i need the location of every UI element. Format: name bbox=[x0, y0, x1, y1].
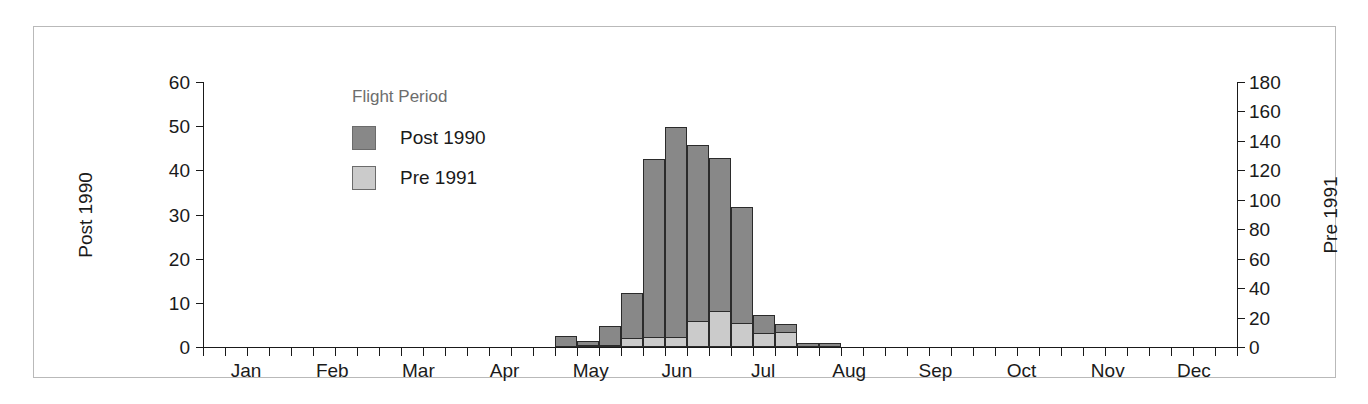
x-tick-mark bbox=[599, 348, 600, 356]
x-tick-mark bbox=[621, 348, 622, 356]
legend-label-post-1990: Post 1990 bbox=[400, 127, 486, 149]
right-tick-mark bbox=[1238, 259, 1245, 260]
x-tick-mark bbox=[643, 348, 644, 356]
left-tick-label: 60 bbox=[169, 73, 190, 92]
x-tick-mark bbox=[1193, 348, 1194, 356]
left-tick-label: 20 bbox=[169, 250, 190, 269]
left-tick-mark bbox=[196, 82, 203, 83]
x-axis-month-label: Oct bbox=[982, 361, 1062, 380]
left-tick-label: 40 bbox=[169, 161, 190, 180]
right-tick-mark bbox=[1238, 170, 1245, 171]
x-tick-mark bbox=[1061, 348, 1062, 356]
right-axis-title: Pre 1991 bbox=[1320, 176, 1342, 253]
left-tick-mark bbox=[196, 259, 203, 260]
x-tick-mark bbox=[423, 348, 424, 356]
x-tick-mark bbox=[467, 348, 468, 356]
x-tick-mark bbox=[1017, 348, 1018, 356]
right-tick-mark bbox=[1238, 82, 1245, 83]
bar-post-1990 bbox=[643, 159, 665, 347]
right-tick-mark bbox=[1238, 318, 1245, 319]
x-tick-mark bbox=[709, 348, 710, 356]
x-tick-mark bbox=[665, 348, 666, 356]
x-tick-mark bbox=[577, 348, 578, 356]
x-tick-mark bbox=[1039, 348, 1040, 356]
x-tick-mark bbox=[203, 348, 204, 356]
x-axis-month-label: Apr bbox=[465, 361, 545, 380]
left-tick-label: 50 bbox=[169, 117, 190, 136]
left-tick-label: 0 bbox=[179, 338, 190, 357]
legend-item-post-1990[interactable]: Post 1990 bbox=[352, 126, 486, 150]
right-tick-mark bbox=[1238, 347, 1245, 348]
x-tick-mark bbox=[489, 348, 490, 356]
x-tick-mark bbox=[863, 348, 864, 356]
left-tick-label: 10 bbox=[169, 294, 190, 313]
right-tick-label: 160 bbox=[1249, 102, 1281, 121]
right-tick-label: 60 bbox=[1249, 250, 1270, 269]
right-tick-mark bbox=[1238, 288, 1245, 289]
x-tick-mark bbox=[1127, 348, 1128, 356]
left-axis-title: Post 1990 bbox=[75, 172, 97, 258]
legend-item-pre-1991[interactable]: Pre 1991 bbox=[352, 166, 486, 190]
bar-pre-1991 bbox=[643, 337, 665, 347]
x-axis-month-label: Aug bbox=[809, 361, 889, 380]
x-tick-mark bbox=[1171, 348, 1172, 356]
bar-post-1990 bbox=[687, 145, 709, 347]
right-tick-label: 100 bbox=[1249, 191, 1281, 210]
right-tick-mark bbox=[1238, 141, 1245, 142]
bar-pre-1991 bbox=[577, 345, 599, 347]
x-tick-mark bbox=[907, 348, 908, 356]
right-tick-label: 0 bbox=[1249, 338, 1260, 357]
x-tick-mark bbox=[1149, 348, 1150, 356]
bar-pre-1991 bbox=[709, 311, 731, 347]
left-tick-mark bbox=[196, 347, 203, 348]
x-tick-mark bbox=[797, 348, 798, 356]
left-tick-mark bbox=[196, 170, 203, 171]
x-tick-mark bbox=[841, 348, 842, 356]
x-tick-mark bbox=[335, 348, 336, 356]
x-axis-month-label: Dec bbox=[1154, 361, 1234, 380]
x-axis-line bbox=[203, 347, 1237, 348]
x-tick-mark bbox=[1237, 348, 1238, 356]
x-tick-mark bbox=[819, 348, 820, 356]
x-axis-month-label: Jun bbox=[637, 361, 717, 380]
right-axis-line bbox=[1237, 82, 1238, 348]
bar-pre-1991 bbox=[753, 333, 775, 347]
x-tick-mark bbox=[379, 348, 380, 356]
chart-legend: Flight Period Post 1990 Pre 1991 bbox=[352, 87, 486, 206]
right-tick-label: 80 bbox=[1249, 220, 1270, 239]
x-axis-month-label: Nov bbox=[1068, 361, 1148, 380]
bar-post-1990 bbox=[665, 127, 687, 347]
bar-pre-1991 bbox=[599, 345, 621, 347]
right-tick-label: 140 bbox=[1249, 132, 1281, 151]
x-tick-mark bbox=[995, 348, 996, 356]
bar-post-1990 bbox=[819, 343, 841, 347]
x-tick-mark bbox=[269, 348, 270, 356]
right-tick-mark bbox=[1238, 229, 1245, 230]
right-tick-label: 180 bbox=[1249, 73, 1281, 92]
legend-swatch-pre-1991 bbox=[352, 166, 376, 190]
x-tick-mark bbox=[929, 348, 930, 356]
x-tick-mark bbox=[533, 348, 534, 356]
x-tick-mark bbox=[753, 348, 754, 356]
x-tick-mark bbox=[291, 348, 292, 356]
x-tick-mark bbox=[1105, 348, 1106, 356]
bar-post-1990 bbox=[555, 336, 577, 347]
bar-pre-1991 bbox=[731, 323, 753, 347]
x-tick-mark bbox=[401, 348, 402, 356]
x-tick-mark bbox=[357, 348, 358, 356]
x-axis-month-label: Feb bbox=[292, 361, 372, 380]
x-tick-mark bbox=[225, 348, 226, 356]
x-axis-month-label: Sep bbox=[895, 361, 975, 380]
bar-pre-1991 bbox=[687, 321, 709, 347]
right-tick-label: 40 bbox=[1249, 279, 1270, 298]
bar-pre-1991 bbox=[665, 337, 687, 347]
right-tick-label: 120 bbox=[1249, 161, 1281, 180]
x-tick-mark bbox=[555, 348, 556, 356]
x-tick-mark bbox=[885, 348, 886, 356]
left-tick-mark bbox=[196, 126, 203, 127]
x-tick-mark bbox=[1215, 348, 1216, 356]
left-tick-label: 30 bbox=[169, 206, 190, 225]
legend-swatch-post-1990 bbox=[352, 126, 376, 150]
right-tick-label: 20 bbox=[1249, 309, 1270, 328]
x-tick-mark bbox=[1083, 348, 1084, 356]
